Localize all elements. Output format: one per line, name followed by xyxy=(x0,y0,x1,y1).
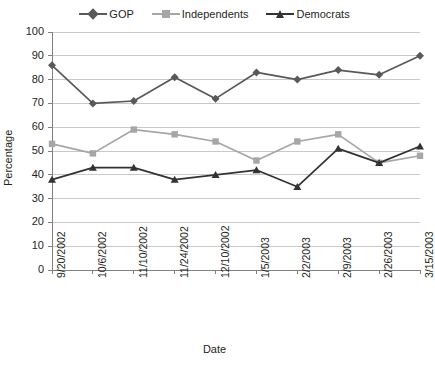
data-point xyxy=(212,138,218,144)
y-axis-tick-label: 50 xyxy=(18,145,44,156)
y-axis-tick-label: 90 xyxy=(18,50,44,61)
x-axis-tick-label: 1/5/2003 xyxy=(260,237,271,278)
data-point xyxy=(293,76,301,84)
data-point xyxy=(253,157,259,163)
y-axis-tick-label: 0 xyxy=(18,264,44,275)
y-axis-tick-label: 10 xyxy=(18,240,44,251)
x-axis-tick-label: 11/10/2002 xyxy=(138,226,149,278)
y-axis-title: Percentage xyxy=(2,130,14,186)
x-axis-tick-label: 9/20/2002 xyxy=(56,231,67,278)
data-point xyxy=(335,131,341,137)
series-democrats xyxy=(48,142,424,189)
x-axis-tick-label: 2/26/2003 xyxy=(383,231,394,278)
x-axis-tick-label: 3/15/2003 xyxy=(424,231,435,278)
data-point xyxy=(334,145,342,152)
y-axis-tick-label: 40 xyxy=(18,169,44,180)
x-axis-tick-label: 11/24/2002 xyxy=(179,226,190,278)
x-axis-title: Date xyxy=(0,343,429,355)
y-axis-tick-label: 60 xyxy=(18,121,44,132)
x-axis-tick-label: 2/2/2003 xyxy=(301,237,312,278)
data-point xyxy=(334,66,342,74)
data-point xyxy=(49,141,55,147)
data-point xyxy=(375,71,383,79)
y-axis-tick-label: 100 xyxy=(18,26,44,37)
data-point xyxy=(417,153,423,159)
data-point xyxy=(294,138,300,144)
y-axis-tick-label: 70 xyxy=(18,97,44,108)
data-point xyxy=(90,150,96,156)
x-axis-tick-label: 12/10/2002 xyxy=(220,225,231,278)
x-axis-tick-label: 2/9/2003 xyxy=(342,237,353,278)
data-point xyxy=(416,142,424,149)
data-point xyxy=(171,131,177,137)
y-axis-tick-label: 80 xyxy=(18,74,44,85)
series-independents xyxy=(49,126,423,166)
data-point xyxy=(416,52,424,60)
data-point xyxy=(131,126,137,132)
y-axis-tick-label: 20 xyxy=(18,216,44,227)
y-axis-tick-label: 30 xyxy=(18,193,44,204)
x-axis-tick-label: 10/6/2002 xyxy=(97,231,108,278)
